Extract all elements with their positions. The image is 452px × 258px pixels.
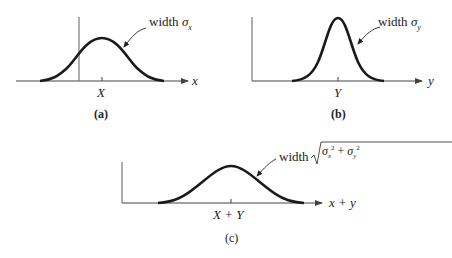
axis-label-x-plus-y: x + y [329,196,356,209]
width-label-a: width σx [149,15,192,32]
center-label-X: X [97,86,105,99]
center-label-Y: Y [334,86,341,99]
center-label-X-plus-Y: X + Y [213,208,243,221]
caption-a: (a) [94,108,108,120]
axis-label-x: x [192,74,198,87]
sqrt-expression: σx2 + σy2 [322,145,360,160]
pointer-arrow-b [358,27,380,44]
pointer-arrow-c [257,159,276,176]
gaussian-curve-b [292,18,384,81]
gaussian-curve-c [158,166,304,203]
caption-c: (c) [225,232,238,244]
caption-b: (b) [331,108,346,120]
gaussian-convolution-figure: width σx x X (a) width σy y Y (b) width … [0,0,452,258]
axis-label-y: y [428,74,434,87]
pointer-arrow-a [124,28,146,47]
gaussian-curve-a [40,38,164,81]
width-label-c: width [279,150,309,163]
width-label-b: width σy [378,15,421,32]
